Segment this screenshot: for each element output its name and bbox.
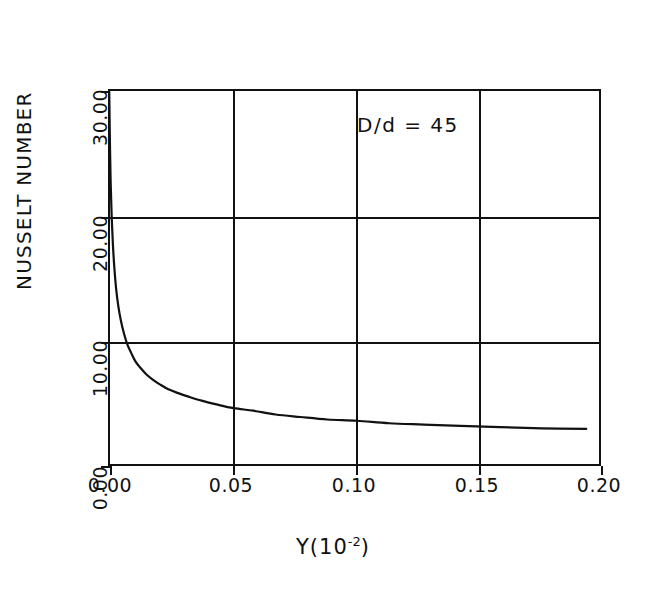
- annotation-dd-ratio: D/d = 45: [357, 113, 459, 137]
- caption-strip: [0, 592, 666, 602]
- x-axis-title-exponent: -2: [348, 534, 361, 549]
- x-tick-label-2: 0.10: [332, 474, 376, 496]
- y-axis-tick-labels: 0.00 10.00 20.00 30.00: [0, 0, 108, 602]
- x-tick-label-0: 0.00: [88, 474, 132, 496]
- x-tick-label-3: 0.15: [455, 474, 499, 496]
- y-tick-0: [101, 466, 110, 468]
- chart-figure: NUSSELT NUMBER 0.00 10.00 20.00 30.00: [0, 0, 666, 602]
- x-axis-title: Y(10-2): [0, 534, 666, 559]
- x-tick-label-1: 0.05: [209, 474, 253, 496]
- x-axis-title-base: Y(10: [296, 535, 348, 559]
- series-line-nusselt: [109, 92, 586, 429]
- data-curve: [108, 89, 601, 466]
- x-tick-label-4: 0.20: [577, 474, 621, 496]
- x-axis-title-tail: ): [361, 535, 370, 559]
